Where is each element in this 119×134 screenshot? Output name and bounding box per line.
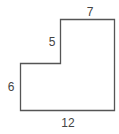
inner-vertical-side-label: 5: [49, 35, 56, 49]
composite-shape-diagram: 7 5 6 12: [0, 0, 119, 134]
top-side-label: 7: [87, 5, 94, 19]
bottom-side-label: 12: [61, 116, 75, 130]
l-shaped-figure-outline: [21, 20, 115, 111]
left-side-label: 6: [8, 80, 15, 94]
